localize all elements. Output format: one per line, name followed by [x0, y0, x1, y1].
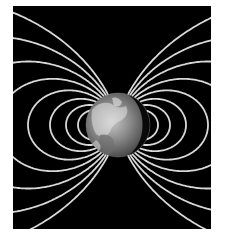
magnetic-field-diagram [13, 6, 211, 229]
earth [86, 93, 150, 157]
figure-panel [13, 6, 211, 229]
